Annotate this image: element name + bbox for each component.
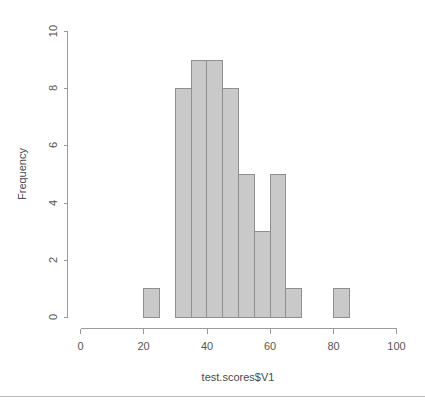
bottom-divider	[0, 396, 425, 397]
histogram-bars	[144, 60, 349, 317]
x-tick-label-40: 40	[201, 340, 213, 352]
y-tick-label-2: 2	[47, 257, 59, 263]
x-tick-label-80: 80	[327, 340, 339, 352]
y-axis: 0 2 4 6 8 10	[47, 25, 68, 320]
histogram-bar	[207, 60, 223, 317]
histogram-bar	[286, 289, 302, 318]
x-tick-label-60: 60	[264, 340, 276, 352]
y-tick-label-0: 0	[47, 314, 59, 320]
x-axis-title: test.scores$V1	[202, 371, 275, 383]
y-tick-label-8: 8	[47, 85, 59, 91]
x-axis: 0 20 40 60 80 100	[77, 329, 405, 353]
y-tick-label-4: 4	[47, 200, 59, 206]
x-tick-label-0: 0	[77, 340, 83, 352]
histogram-bar	[223, 89, 239, 318]
x-tick-label-100: 100	[387, 340, 405, 352]
x-tick-label-20: 20	[137, 340, 149, 352]
histogram-bar	[333, 289, 349, 318]
histogram-bar	[239, 175, 255, 318]
histogram-bar	[254, 232, 270, 318]
y-tick-label-10: 10	[47, 25, 59, 37]
histogram-bar	[191, 60, 207, 317]
histogram-bar	[175, 89, 191, 318]
y-axis-title: Frequency	[16, 148, 28, 200]
y-tick-label-6: 6	[47, 142, 59, 148]
histogram-canvas: 0 2 4 6 8 10 Frequency 0 20 40 60 80 100	[0, 0, 425, 402]
histogram-bar	[270, 175, 286, 318]
histogram-plot-area: 0 2 4 6 8 10 Frequency 0 20 40 60 80 100	[0, 0, 425, 402]
histogram-bar	[144, 289, 160, 318]
